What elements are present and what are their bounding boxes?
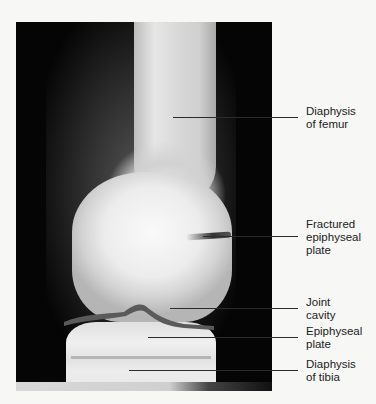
label-diaphysis-femur: Diaphysis of femur bbox=[306, 105, 356, 131]
joint-cavity-shape bbox=[64, 300, 214, 330]
label-line: of tibia bbox=[306, 371, 356, 384]
label-line: Diaphysis bbox=[306, 105, 356, 118]
label-line: plate bbox=[306, 338, 362, 351]
label-fractured-epiphyseal-plate: Fractured epiphyseal plate bbox=[306, 218, 361, 257]
tibia-epiphyseal-line bbox=[71, 356, 211, 359]
label-line: Fractured bbox=[306, 218, 361, 231]
label-line: Epiphyseal bbox=[306, 325, 362, 338]
leader-line-joint-cavity bbox=[170, 308, 298, 309]
leader-line-femur bbox=[173, 117, 298, 118]
label-line: cavity bbox=[306, 309, 335, 322]
label-diaphysis-tibia: Diaphysis of tibia bbox=[306, 358, 356, 384]
label-line: of femur bbox=[306, 118, 356, 131]
leader-line-fractured-plate bbox=[203, 236, 298, 237]
label-line: epiphyseal bbox=[306, 231, 361, 244]
label-line: plate bbox=[306, 244, 361, 257]
leader-line-tibia bbox=[129, 370, 298, 371]
xray-image bbox=[16, 22, 272, 391]
bottom-edge bbox=[16, 382, 272, 391]
label-epiphyseal-plate: Epiphyseal plate bbox=[306, 325, 362, 351]
label-line: Joint bbox=[306, 296, 335, 309]
label-joint-cavity: Joint cavity bbox=[306, 296, 335, 322]
leader-line-epiphyseal-plate bbox=[148, 337, 298, 338]
label-line: Diaphysis bbox=[306, 358, 356, 371]
